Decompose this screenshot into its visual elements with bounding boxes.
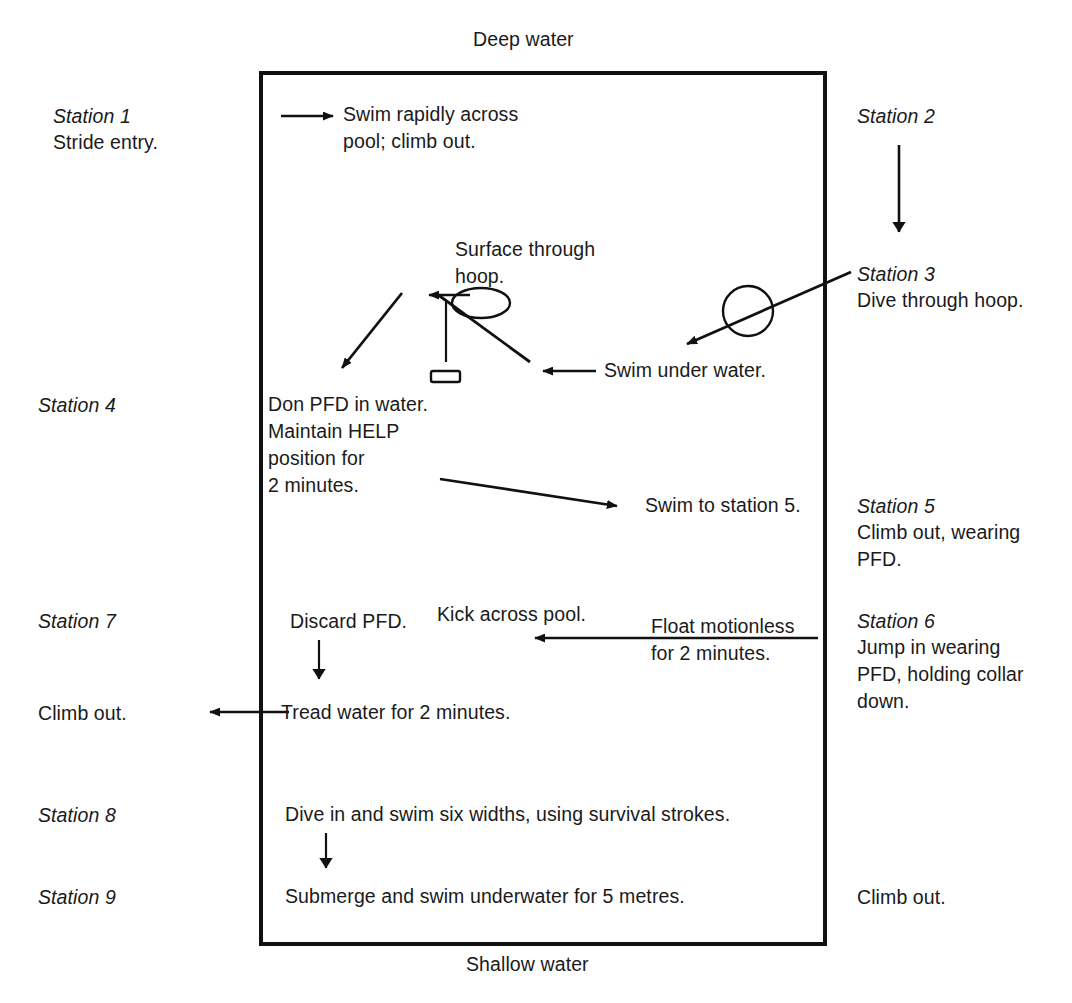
text-float-motionless: Float motionless for 2 minutes. (651, 613, 795, 667)
left-station-8-label: Station 8 (38, 802, 116, 829)
text-dive-six-widths: Dive in and swim six widths, using survi… (285, 801, 730, 828)
label-deep-water: Deep water (473, 26, 574, 53)
label-shallow-water: Shallow water (466, 951, 589, 978)
hoop-ellipse (452, 288, 510, 318)
right-station-6-label: Station 6 (857, 608, 935, 635)
text-discard-pfd: Discard PFD. (290, 608, 407, 635)
arrow-to-don-pfd (342, 293, 402, 368)
left-climb-out-text: Climb out. (38, 700, 127, 727)
text-tread-water: Tread water for 2 minutes. (281, 699, 510, 726)
text-kick-across-pool: Kick across pool. (437, 601, 586, 628)
text-swim-under-water: Swim under water. (604, 357, 766, 384)
left-station-9-label: Station 9 (38, 884, 116, 911)
right-station-5-label: Station 5 (857, 493, 935, 520)
left-station-7-label: Station 7 (38, 608, 116, 635)
right-station-6-text: Jump in wearing PFD, holding collar down… (857, 634, 1024, 715)
right-station-3-text: Dive through hoop. (857, 287, 1024, 314)
left-station-1-label: Station 1 (53, 103, 131, 130)
left-station-1-text: Stride entry. (53, 129, 158, 156)
left-station-4-label: Station 4 (38, 392, 116, 419)
text-swim-to-station5: Swim to station 5. (645, 492, 801, 519)
right-climb-out-text: Climb out. (857, 884, 946, 911)
swim-circuit-diagram: Deep water Shallow water Station 1 Strid… (0, 0, 1072, 1003)
arrow-swim-to-station5 (440, 479, 617, 506)
right-station-5-text: Climb out, wearing PFD. (857, 519, 1020, 573)
text-surface-through-hoop: Surface through hoop. (455, 236, 595, 290)
text-swim-rapidly: Swim rapidly across pool; climb out. (343, 101, 518, 155)
arrow-surface-through-hoop-path (437, 294, 530, 362)
hoop-circle (723, 286, 773, 336)
text-don-pfd: Don PFD in water. Maintain HELP position… (268, 391, 428, 499)
arrow-station3-dive-through-hoop (687, 272, 851, 344)
right-station-2-label: Station 2 (857, 103, 935, 130)
hoop-base (431, 371, 460, 382)
text-submerge-swim: Submerge and swim underwater for 5 metre… (285, 883, 685, 910)
right-station-3-label: Station 3 (857, 261, 935, 288)
